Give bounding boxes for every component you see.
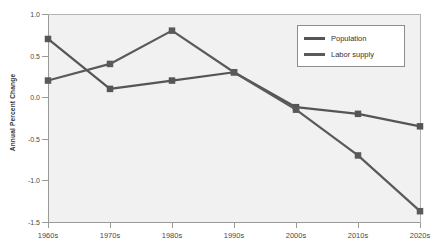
plot-right-border bbox=[420, 14, 421, 223]
legend-item-population[interactable]: Population bbox=[304, 30, 398, 46]
y-tick-mark bbox=[42, 14, 48, 15]
legend-item-labor-supply[interactable]: Labor supply bbox=[304, 46, 398, 62]
plot-top-border bbox=[48, 14, 421, 15]
y-tick-label: -1.0 bbox=[0, 177, 40, 184]
legend-swatch-population bbox=[304, 37, 325, 40]
x-tick-mark bbox=[234, 223, 235, 228]
legend-swatch-labor-supply bbox=[304, 53, 325, 56]
y-tick-mark bbox=[42, 139, 48, 140]
y-tick-label: -1.5 bbox=[0, 219, 40, 226]
x-tick-label: 1960s bbox=[18, 231, 78, 240]
x-tick-mark bbox=[110, 223, 111, 228]
x-tick-label: 1990s bbox=[204, 231, 264, 240]
x-tick-mark bbox=[172, 223, 173, 228]
x-tick-mark bbox=[420, 223, 421, 228]
x-tick-mark bbox=[358, 223, 359, 228]
y-tick-mark bbox=[42, 97, 48, 98]
x-tick-label: 1980s bbox=[142, 231, 202, 240]
legend: Population Labor supply bbox=[297, 25, 405, 67]
x-tick-label: 2010s bbox=[328, 231, 388, 240]
x-tick-mark bbox=[296, 223, 297, 228]
legend-label-population: Population bbox=[331, 34, 366, 43]
y-tick-mark bbox=[42, 56, 48, 57]
y-axis-title: Annual Percent Change bbox=[2, 0, 24, 225]
y-tick-label: -0.5 bbox=[0, 135, 40, 142]
x-tick-label: 2020s bbox=[390, 231, 436, 240]
x-tick-mark bbox=[48, 223, 49, 228]
x-tick-label: 2000s bbox=[266, 231, 326, 240]
legend-label-labor-supply: Labor supply bbox=[331, 50, 374, 59]
y-tick-mark bbox=[42, 180, 48, 181]
y-tick-label: 0.5 bbox=[0, 52, 40, 59]
y-tick-label: 0.0 bbox=[0, 94, 40, 101]
x-tick-label: 1970s bbox=[80, 231, 140, 240]
chart-figure: Annual Percent Change 1.00.50.0-0.5-1.0-… bbox=[0, 0, 436, 251]
y-tick-label: 1.0 bbox=[0, 11, 40, 18]
